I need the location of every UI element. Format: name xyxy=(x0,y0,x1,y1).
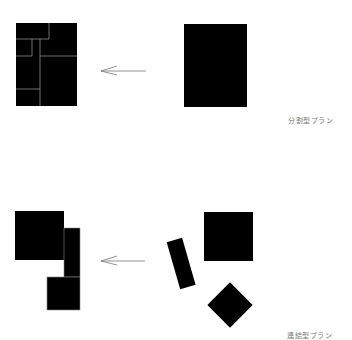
connected-plan-label: 連結型プラン xyxy=(287,330,332,340)
divided-plan-result xyxy=(16,23,77,106)
diagram-canvas xyxy=(0,0,352,340)
connected-plan-result xyxy=(15,211,80,310)
arrow-left-icon xyxy=(101,256,145,265)
divided-plan-source-block xyxy=(184,24,247,107)
divided-plan-label: 分割型プラン xyxy=(288,115,333,125)
connected-plan-source-blocks xyxy=(167,212,253,328)
arrow-left-icon xyxy=(101,66,146,75)
